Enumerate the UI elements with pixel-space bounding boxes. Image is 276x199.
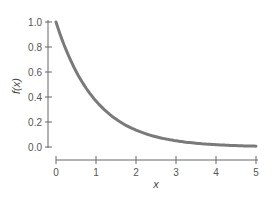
y-tick-label: 0.0: [28, 142, 42, 153]
data-line: [56, 22, 256, 146]
y-tick-label: 0.2: [28, 117, 42, 128]
x-tick-label: 5: [253, 167, 259, 178]
x-ticks: 012345: [53, 156, 259, 178]
x-tick-label: 4: [213, 167, 219, 178]
x-tick-label: 1: [93, 167, 99, 178]
y-tick-label: 1.0: [28, 17, 42, 28]
y-axis-label: f(x): [10, 78, 22, 94]
x-tick-label: 0: [53, 167, 59, 178]
y-tick-label: 0.6: [28, 67, 42, 78]
y-tick-label: 0.4: [28, 92, 42, 103]
chart: 0.00.20.40.60.81.0 012345 f(x) x: [0, 0, 276, 199]
x-tick-label: 2: [133, 167, 139, 178]
x-axis-label: x: [152, 178, 159, 190]
x-tick-label: 3: [173, 167, 179, 178]
y-tick-label: 0.8: [28, 42, 42, 53]
